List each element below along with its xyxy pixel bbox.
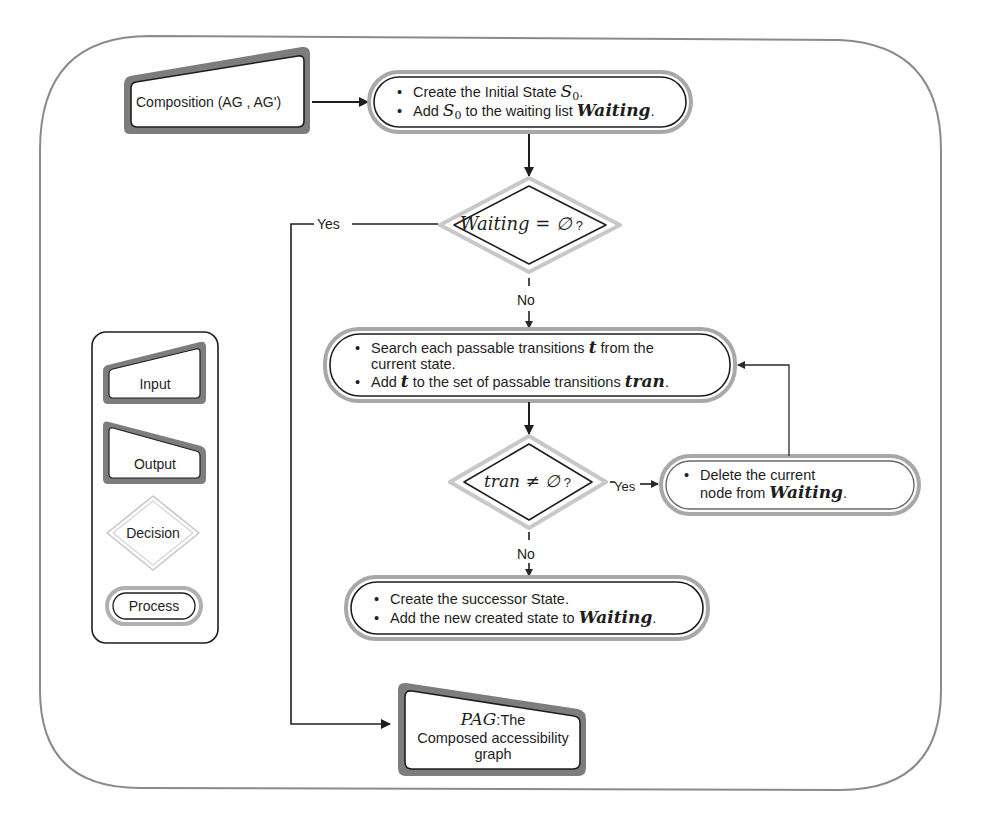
- output-node-line-1: PAG:The: [405, 711, 581, 729]
- process-search-line-1b: current state.: [371, 356, 456, 373]
- legend-decision-label: Decision: [107, 525, 199, 542]
- decision-waiting-no-label: No: [517, 292, 535, 308]
- legend-input-label: Input: [109, 376, 201, 393]
- process-successor-line-2: Add the new created state to Waiting.: [372, 609, 656, 627]
- decision-tran-yes-label: Yes: [614, 479, 635, 494]
- decision-waiting-yes-label: Yes: [317, 216, 340, 232]
- math-subscript: 0: [455, 109, 462, 122]
- process-successor-line-1: Create the successor State.: [372, 591, 569, 608]
- output-node-line-2: Composed accessibility: [405, 730, 581, 747]
- process-delete-line-2: node from Waiting.: [700, 484, 847, 502]
- decision-tran-label: tran ≠ ∅ ?: [484, 473, 571, 491]
- loop-delete-to-search: [738, 365, 789, 456]
- input-node-label: Composition (AG , AG'): [136, 94, 281, 111]
- math-tran-nonempty: tran ≠ ∅: [484, 471, 560, 491]
- text-segment: to the waiting list: [462, 103, 577, 119]
- text-segment: .: [579, 84, 583, 100]
- input-node-composition: [124, 47, 310, 134]
- math-t: t: [401, 371, 409, 391]
- text-segment: node from: [700, 485, 769, 501]
- math-t: t: [589, 337, 597, 357]
- text-segment: .: [843, 485, 847, 501]
- process-search-line-2: Add t to the set of passable transitions…: [353, 373, 669, 391]
- text-segment: .: [650, 103, 654, 119]
- process-successor-node: [346, 577, 708, 639]
- text-segment: from the: [597, 340, 654, 356]
- decision-tran-no-label: No: [517, 546, 535, 562]
- math-tran: tran: [625, 371, 665, 391]
- text-segment: Search each passable transitions: [371, 340, 589, 356]
- math-waiting-empty: Waiting = ∅: [460, 213, 572, 234]
- output-node-line-3: graph: [405, 746, 581, 763]
- text-segment: :The: [496, 712, 525, 728]
- legend-process-label: Process: [107, 598, 201, 615]
- math-waiting: Waiting: [579, 607, 653, 627]
- yes-path-line-left: [291, 224, 390, 724]
- math-s: S: [561, 81, 573, 101]
- legend-output-label: Output: [109, 456, 201, 473]
- text-segment: Add the new created state to: [390, 610, 579, 626]
- process-search-line-1: Search each passable transitions t from …: [353, 339, 654, 357]
- text-segment: Add: [371, 374, 401, 390]
- text-segment: Add: [413, 103, 443, 119]
- math-pag: PAG: [461, 709, 497, 729]
- text-segment: .: [652, 610, 656, 626]
- math-waiting: Waiting: [769, 482, 843, 502]
- text-segment: ?: [572, 218, 583, 233]
- text-segment: ?: [560, 475, 571, 490]
- math-s: S: [443, 100, 455, 120]
- text-segment: to the set of passable transitions: [409, 374, 625, 390]
- decision-waiting-label: Waiting = ∅ ?: [460, 215, 583, 234]
- text-segment: Create the Initial State: [413, 84, 561, 100]
- process-init-line-2: Add S0 to the waiting list Waiting.: [395, 102, 654, 124]
- text-segment: .: [665, 374, 669, 390]
- math-waiting: Waiting: [577, 100, 651, 120]
